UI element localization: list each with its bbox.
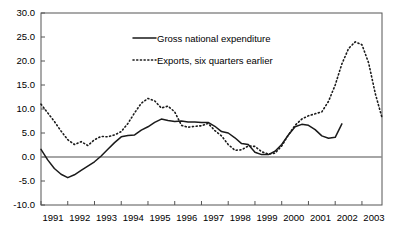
x-tick-label: 1999 xyxy=(256,212,277,223)
chart-container: 30.025.020.015.010.05.00.0-5.0-10.0 1991… xyxy=(0,0,393,245)
x-axis-tick-marks xyxy=(41,201,362,205)
x-tick-label: 1991 xyxy=(42,212,63,223)
x-tick-label: 1994 xyxy=(123,212,144,223)
y-tick-label: 5.0 xyxy=(22,127,35,138)
y-tick-label: 25.0 xyxy=(17,31,36,42)
line-chart: 30.025.020.015.010.05.00.0-5.0-10.0 1991… xyxy=(0,0,393,245)
legend: Gross national expenditure Exports, six … xyxy=(133,33,273,66)
y-tick-label: 30.0 xyxy=(17,7,36,18)
y-axis-tick-labels: 30.025.020.015.010.05.00.0-5.0-10.0 xyxy=(13,7,35,210)
y-tick-label: -10.0 xyxy=(13,199,35,210)
y-tick-label: -5.0 xyxy=(19,175,35,186)
x-tick-label: 1996 xyxy=(176,212,197,223)
legend-label-exports-six-quarters-earlier: Exports, six quarters earlier xyxy=(157,55,273,66)
y-tick-label: 10.0 xyxy=(17,103,36,114)
x-tick-label: 2000 xyxy=(283,212,304,223)
y-tick-label: 20.0 xyxy=(17,55,36,66)
x-tick-label: 1992 xyxy=(69,212,90,223)
x-axis-tick-labels: 1991199219931994199519961997199819992000… xyxy=(42,212,384,223)
y-tick-label: 0.0 xyxy=(22,151,35,162)
x-tick-label: 1995 xyxy=(149,212,170,223)
y-tick-label: 15.0 xyxy=(17,79,36,90)
x-tick-label: 2001 xyxy=(310,212,331,223)
x-tick-label: 1998 xyxy=(230,212,251,223)
x-tick-label: 2003 xyxy=(363,212,384,223)
series-line-gross-national-expenditure xyxy=(41,119,342,178)
legend-label-gross-national-expenditure: Gross national expenditure xyxy=(157,33,271,44)
x-tick-label: 1993 xyxy=(96,212,117,223)
x-tick-label: 2002 xyxy=(337,212,358,223)
y-axis-tick-marks xyxy=(41,13,45,205)
x-tick-label: 1997 xyxy=(203,212,224,223)
